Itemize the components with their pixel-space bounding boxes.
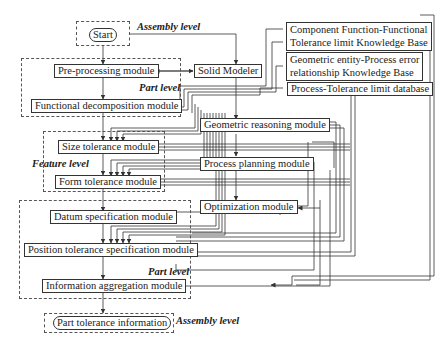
part-level-label-top: Part level (139, 82, 180, 93)
kb-function-line-1: Component Function-Functional (290, 24, 428, 37)
kb-geometric-line-1: Geometric entity-Process error (290, 54, 419, 67)
form-tolerance-module: Form tolerance module (55, 175, 161, 189)
geometric-reasoning-module: Geometric reasoning module (200, 118, 330, 132)
optimization-module: Optimization module (200, 200, 298, 214)
size-tolerance-module: Size tolerance module (58, 140, 159, 154)
functional-decomposition-module: Functional decomposition module (31, 99, 182, 113)
kb-geometric-line-2: relationship Knowledge Base (290, 67, 419, 80)
information-aggregation-module: Information aggregation module (42, 279, 186, 293)
position-tolerance-specification-module: Position tolerance specification module (24, 243, 198, 257)
start-node: Start (89, 28, 117, 42)
feature-level-label: Feature level (32, 158, 89, 169)
assembly-level-label-bottom: Assembly level (176, 315, 239, 326)
solid-modeler: Solid Modeler (194, 64, 262, 78)
preprocessing-module: Pre-processing module (54, 64, 159, 78)
part-level-label-bottom: Part level (148, 266, 189, 277)
process-planning-module: Process planning module (200, 157, 314, 171)
diagram-canvas: Assembly level Part level Feature level … (0, 0, 439, 347)
geometric-process-error-knowledge-base: Geometric entity-Process error relations… (286, 52, 423, 81)
process-tolerance-limit-database: Process-Tolerance limit database (287, 82, 433, 96)
kb-function-line-2: Tolerance limit Knowledge Base (290, 37, 428, 50)
part-tolerance-information-node: Part tolerance information (53, 316, 171, 330)
assembly-level-label-top: Assembly level (137, 21, 200, 32)
function-tolerance-knowledge-base: Component Function-Functional Tolerance … (286, 22, 432, 51)
datum-specification-module: Datum specification module (50, 210, 177, 224)
